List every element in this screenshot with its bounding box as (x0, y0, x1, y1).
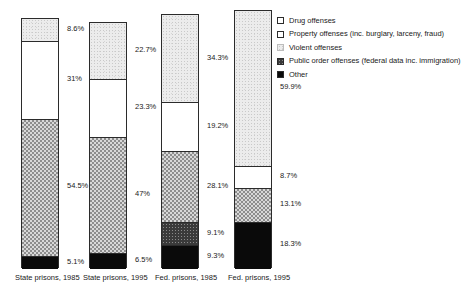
bar-segment-other (235, 222, 271, 269)
legend-item-violent[interactable]: Violent offenses (277, 41, 465, 54)
public-order-swatch-icon (277, 58, 284, 65)
segment-value-label: 18.3% (280, 240, 301, 248)
segment-value-label: 28.1% (207, 182, 228, 190)
segment-value-label: 54.5% (67, 182, 88, 190)
segment-value-label: 34.3% (207, 54, 228, 62)
segment-value-label: 19.2% (207, 122, 228, 130)
stacked-bar (21, 18, 59, 268)
stacked-bar-chart: 8.6%31%54.5%5.1%State prisons, 198522.7%… (0, 0, 466, 295)
segment-value-label: 13.1% (280, 200, 301, 208)
legend-item-label: Other (289, 71, 308, 79)
property-swatch-icon (277, 31, 284, 38)
bar-segment-violent (235, 11, 271, 166)
violent-swatch-icon (277, 44, 284, 51)
legend-item-label: Property offenses (inc. burglary, larcen… (289, 30, 444, 38)
bar-segment-other (22, 256, 58, 269)
bar-segment-violent (90, 23, 126, 79)
bar-segment-other (90, 253, 126, 269)
segment-value-label: 22.7% (135, 46, 156, 54)
bar-segment-drug (235, 166, 271, 188)
segment-value-label: 5.1% (67, 258, 84, 266)
segment-value-label: 9.3% (207, 252, 224, 260)
category-label: State prisons, 1995 (83, 274, 148, 282)
bar-group-2: 22.7%23.3%47%6.5%State prisons, 1995 (89, 22, 127, 295)
bar-segment-drug (162, 102, 198, 151)
segment-value-label: 23.3% (135, 103, 156, 111)
bar-group-4: 59.9%8.7%13.1%18.3%Fed. prisons, 1995 (234, 10, 272, 295)
legend-item-label: Public order offenses (federal data inc.… (289, 57, 461, 65)
bar-segment-property (22, 119, 58, 256)
legend-item-property[interactable]: Property offenses (inc. burglary, larcen… (277, 28, 465, 41)
segment-value-label: 59.9% (280, 83, 301, 91)
segment-value-label: 8.7% (280, 172, 297, 180)
legend-item-public-order[interactable]: Public order offenses (federal data inc.… (277, 55, 465, 68)
segment-value-label: 6.5% (135, 256, 152, 264)
segment-value-label: 47% (135, 190, 150, 198)
bar-segment-public-order (162, 222, 198, 245)
stacked-bar (89, 22, 127, 268)
bar-segment-violent (162, 15, 198, 102)
legend-item-label: Violent offenses (289, 44, 342, 52)
bar-segment-property (162, 151, 198, 222)
legend-item-drug[interactable]: Drug offenses (277, 14, 465, 27)
category-label: Fed. prisons, 1985 (155, 274, 217, 282)
other-swatch-icon (277, 71, 284, 78)
drug-swatch-icon (277, 17, 284, 24)
bar-segment-drug (90, 79, 126, 137)
bar-segment-violent (22, 19, 58, 41)
segment-value-label: 8.6% (67, 25, 84, 33)
stacked-bar (161, 14, 199, 268)
category-label: Fed. prisons, 1995 (228, 274, 290, 282)
bar-group-3: 34.3%19.2%28.1%9.1%9.3%Fed. prisons, 198… (161, 14, 199, 295)
bar-segment-property (90, 137, 126, 253)
legend-item-other[interactable]: Other (277, 68, 465, 81)
bar-segment-drug (22, 41, 58, 119)
bar-segment-other (162, 245, 198, 269)
segment-value-label: 31% (67, 75, 82, 83)
bar-segment-property (235, 188, 271, 222)
stacked-bar (234, 10, 272, 268)
bar-group-1: 8.6%31%54.5%5.1%State prisons, 1985 (21, 18, 59, 295)
segment-value-label: 9.1% (207, 229, 224, 237)
category-label: State prisons, 1985 (15, 274, 80, 282)
legend-item-label: Drug offenses (289, 17, 336, 25)
chart-legend: Drug offensesProperty offenses (inc. bur… (277, 14, 465, 82)
